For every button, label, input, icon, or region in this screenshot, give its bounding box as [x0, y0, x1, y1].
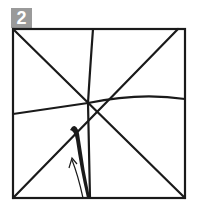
crease-vertical — [88, 29, 93, 198]
fold-diagram — [0, 0, 199, 206]
